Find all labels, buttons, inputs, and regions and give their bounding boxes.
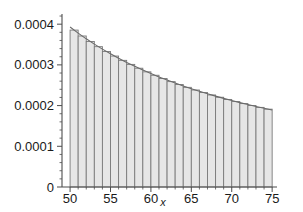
bar (78, 36, 86, 187)
bar (248, 106, 256, 187)
bar (159, 79, 167, 187)
y-tick-label: 0.0003 (14, 57, 54, 72)
bar (119, 60, 127, 187)
y-tick-label: 0 (47, 180, 54, 195)
bar (94, 47, 102, 187)
x-tick-label: 50 (63, 191, 77, 206)
bar (102, 51, 110, 187)
bar (151, 75, 159, 187)
y-axis (57, 14, 62, 187)
x-tick-label: 65 (184, 191, 198, 206)
bar-series (70, 30, 272, 187)
bar (127, 64, 135, 187)
chart-figure: 00.00010.00020.00030.0004 505560657075 x (0, 0, 303, 212)
x-axis-tick-labels: 505560657075 (63, 191, 280, 206)
bar (199, 93, 207, 187)
bar (175, 85, 183, 187)
y-axis-tick-labels: 00.00010.00020.00030.0004 (14, 17, 54, 195)
x-tick-label: 55 (103, 191, 117, 206)
x-tick-label: 75 (265, 191, 279, 206)
chart-plot-area: 00.00010.00020.00030.0004 505560657075 x (0, 0, 303, 212)
bar (167, 82, 175, 187)
bar (70, 30, 78, 187)
x-axis-title: x (159, 196, 166, 208)
bar (207, 95, 215, 187)
bar (111, 56, 119, 187)
bar (183, 87, 191, 187)
y-tick-label: 0.0001 (14, 139, 54, 154)
bar (135, 68, 143, 187)
bar (240, 104, 248, 187)
bar (264, 109, 272, 187)
bar (256, 107, 264, 187)
bar (224, 99, 232, 187)
bar (232, 102, 240, 187)
y-tick-label: 0.0004 (14, 17, 54, 32)
x-tick-label: 70 (225, 191, 239, 206)
x-axis (62, 187, 277, 192)
bar (191, 90, 199, 187)
bar (86, 41, 94, 187)
bar (143, 72, 151, 187)
x-tick-label: 60 (144, 191, 158, 206)
y-tick-label: 0.0002 (14, 98, 54, 113)
bar (216, 97, 224, 187)
